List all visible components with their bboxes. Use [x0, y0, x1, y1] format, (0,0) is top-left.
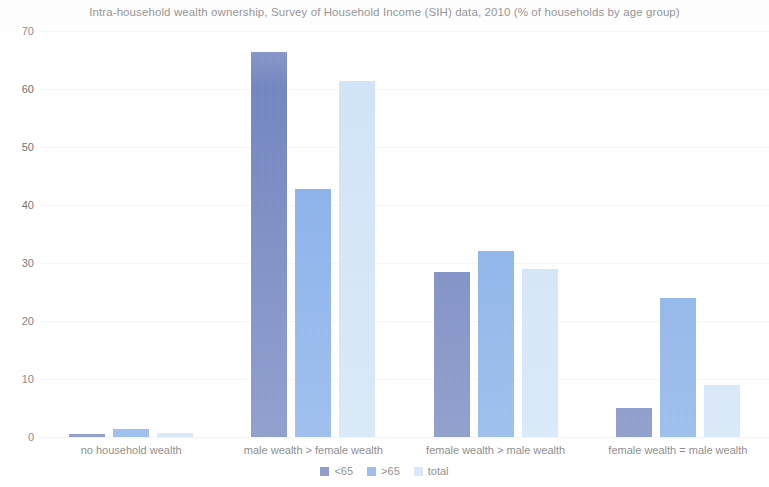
- bar-group-bars: [222, 31, 404, 437]
- bar-65-0[interactable]: [69, 434, 105, 437]
- chart-title: Intra-household wealth ownership, Survey…: [0, 6, 769, 18]
- legend-label: total: [428, 466, 449, 477]
- bar-group-bars: [405, 31, 587, 437]
- x-axis-tick-label: female wealth = male wealth: [608, 444, 747, 456]
- bar-65-3[interactable]: [616, 408, 652, 437]
- y-axis: 010203040506070: [0, 31, 40, 437]
- legend-swatch-icon: [414, 467, 423, 476]
- bar-65-3[interactable]: [660, 298, 696, 437]
- bar-65-2[interactable]: [478, 251, 514, 437]
- y-axis-tick-label: 50: [22, 142, 34, 153]
- legend-item[interactable]: >65: [367, 466, 400, 477]
- bar-total-3[interactable]: [704, 385, 740, 437]
- x-axis: no household wealthmale wealth > female …: [40, 444, 769, 464]
- bar-group: [40, 31, 222, 437]
- legend-swatch-icon: [320, 467, 329, 476]
- x-axis-tick-label: no household wealth: [81, 444, 182, 456]
- bar-group: [222, 31, 404, 437]
- x-axis-tick-label: male wealth > female wealth: [244, 444, 383, 456]
- bar-total-1[interactable]: [339, 81, 375, 437]
- legend-label: <65: [334, 466, 353, 477]
- gridline: [40, 437, 769, 438]
- bar-total-2[interactable]: [522, 269, 558, 437]
- bar-group-bars: [587, 31, 769, 437]
- bar-chart: Intra-household wealth ownership, Survey…: [0, 0, 769, 487]
- y-axis-tick-label: 10: [22, 374, 34, 385]
- bar-65-0[interactable]: [113, 429, 149, 437]
- y-axis-tick-label: 70: [22, 26, 34, 37]
- y-axis-tick-label: 40: [22, 200, 34, 211]
- bar-group: [587, 31, 769, 437]
- y-axis-tick-label: 30: [22, 258, 34, 269]
- legend-swatch-icon: [367, 467, 376, 476]
- y-axis-tick-label: 20: [22, 316, 34, 327]
- bar-65-2[interactable]: [434, 272, 470, 437]
- chart-legend: <65>65total: [0, 466, 769, 477]
- x-axis-tick-label: female wealth > male wealth: [426, 444, 565, 456]
- bar-65-1[interactable]: [295, 189, 331, 437]
- bar-group: [405, 31, 587, 437]
- plot-area: [40, 31, 769, 437]
- bar-65-1[interactable]: [251, 52, 287, 437]
- legend-item[interactable]: total: [414, 466, 449, 477]
- y-axis-tick-label: 0: [28, 432, 34, 443]
- y-axis-tick-label: 60: [22, 84, 34, 95]
- bar-total-0[interactable]: [157, 433, 193, 437]
- legend-label: >65: [381, 466, 400, 477]
- bar-group-bars: [40, 31, 222, 437]
- legend-item[interactable]: <65: [320, 466, 353, 477]
